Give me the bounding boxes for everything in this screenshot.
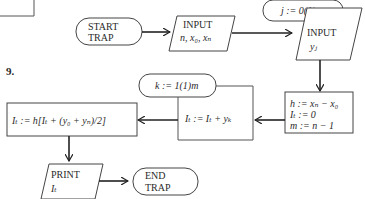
start-terminal: START TRAP [76,18,142,45]
input2-label-line1: INPUT [307,27,336,38]
loop-k-label: k := 1(1)m [155,80,198,92]
input-y-node: INPUT yⱼ [296,8,362,60]
print-node: PRINT Iₜ [41,164,103,199]
print-label-line1: PRINT [51,169,80,180]
init-line1: h := xₙ − x₀ [290,98,339,109]
figure-number: 9. [6,65,15,77]
final-label: Iₜ := h[Iₜ + (y₀ + yₙ)/2] [11,115,106,127]
initialization-node: h := xₙ − x₀ Iₜ := 0 m := n − 1 [285,92,353,133]
init-line2: Iₜ := 0 [289,109,316,120]
input2-label-line2: yⱼ [309,41,317,52]
input1-label-line2: n, x₀, xₙ [180,32,211,43]
accumulate-label: Iₜ := Iₜ + yₖ [184,113,232,124]
final-computation-node: Iₜ := h[Iₜ + (y₀ + yₙ)/2] [7,103,137,136]
end-label-line2: TRAP [145,182,171,193]
init-line3: m := n − 1 [290,120,334,131]
previous-figure-box-fragment [0,0,34,16]
end-terminal: END TRAP [133,168,198,195]
input1-label-line1: INPUT [183,19,212,30]
start-label-line2: TRAP [88,32,114,43]
input-parameters-node: INPUT n, x₀, xₙ [169,16,235,51]
start-label-line1: START [88,21,118,32]
print-label-line2: Iₜ [50,183,57,194]
end-label-line1: END [145,170,166,181]
loop-k-node: k := 1(1)m [139,74,216,97]
